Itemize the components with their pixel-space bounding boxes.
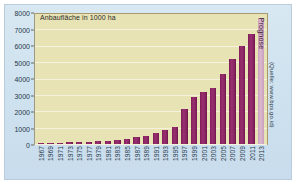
x-axis-tick-label: 2001 bbox=[200, 146, 207, 161]
bar-slot bbox=[218, 13, 228, 144]
bar bbox=[248, 34, 254, 144]
y-axis-tick-mark bbox=[31, 29, 34, 30]
bar bbox=[143, 136, 149, 144]
x-axis-slot: 1977 bbox=[84, 146, 94, 182]
x-axis-tick-label: 1985 bbox=[123, 146, 130, 161]
bar-slot bbox=[74, 13, 84, 144]
x-axis-slot: 1989 bbox=[141, 146, 151, 182]
plot-right-rule bbox=[267, 13, 268, 145]
x-axis-tick-label: 1979 bbox=[95, 146, 102, 161]
bar bbox=[153, 133, 159, 144]
x-axis-slot: 2011 bbox=[247, 146, 257, 182]
y-axis-tick-mark bbox=[31, 46, 34, 47]
x-axis-tick-label: 1975 bbox=[76, 146, 83, 161]
bar bbox=[76, 142, 82, 144]
bar-slot: Prognose bbox=[256, 13, 266, 144]
x-axis-tick-label: 1981 bbox=[104, 146, 111, 161]
bar-slot bbox=[36, 13, 46, 144]
x-axis-slot: 1971 bbox=[55, 146, 65, 182]
x-axis-tick-label: 2007 bbox=[229, 146, 236, 161]
x-axis-tick-label: 1967 bbox=[37, 146, 44, 161]
bar bbox=[162, 130, 168, 144]
bar-slot bbox=[170, 13, 180, 144]
x-axis-tick-label: 1991 bbox=[152, 146, 159, 161]
x-axis: 1967196919711973197519771979198119831985… bbox=[35, 146, 267, 182]
x-axis-slot: 2007 bbox=[228, 146, 238, 182]
x-axis-slot: 1987 bbox=[132, 146, 142, 182]
bar bbox=[133, 137, 139, 144]
bar-slot bbox=[247, 13, 257, 144]
source-note: (Quelle: www.bps.go.id) bbox=[269, 62, 275, 128]
x-axis-slot: 1999 bbox=[189, 146, 199, 182]
x-axis-slot: 1975 bbox=[74, 146, 84, 182]
bar bbox=[105, 141, 111, 144]
bar bbox=[124, 139, 130, 144]
bar bbox=[114, 140, 120, 144]
y-axis-tick-mark bbox=[31, 145, 34, 146]
x-axis-slot: 2005 bbox=[218, 146, 228, 182]
bar-slot bbox=[161, 13, 171, 144]
bar bbox=[229, 59, 235, 144]
bar bbox=[66, 142, 72, 144]
bar-slot bbox=[113, 13, 123, 144]
x-axis-slot: 1997 bbox=[180, 146, 190, 182]
bar bbox=[57, 143, 63, 144]
bar bbox=[181, 109, 187, 144]
bar-slot bbox=[132, 13, 142, 144]
x-axis-tick-label: 1971 bbox=[56, 146, 63, 161]
bar-series: Prognose bbox=[35, 13, 267, 144]
y-axis-tick-mark bbox=[31, 13, 34, 14]
bar-slot bbox=[122, 13, 132, 144]
x-axis-tick-label: 1997 bbox=[181, 146, 188, 161]
y-axis-tick-mark bbox=[31, 79, 34, 80]
x-axis-tick-label: 1989 bbox=[143, 146, 150, 161]
bar-slot bbox=[228, 13, 238, 144]
bar-slot bbox=[93, 13, 103, 144]
bar-slot bbox=[84, 13, 94, 144]
bar-slot bbox=[237, 13, 247, 144]
x-axis-slot: 2009 bbox=[237, 146, 247, 182]
bar bbox=[239, 46, 245, 144]
x-axis-slot: 2003 bbox=[208, 146, 218, 182]
x-axis-tick-label: 1983 bbox=[114, 146, 121, 161]
bar bbox=[200, 92, 206, 144]
bar-slot bbox=[208, 13, 218, 144]
x-axis-slot: 1991 bbox=[151, 146, 161, 182]
x-axis-slot: 1981 bbox=[103, 146, 113, 182]
x-axis-slot: 1995 bbox=[170, 146, 180, 182]
bar-slot bbox=[55, 13, 65, 144]
bar bbox=[86, 142, 92, 144]
x-axis-tick-label: 2005 bbox=[219, 146, 226, 161]
bar bbox=[210, 88, 216, 144]
x-axis-slot: 1973 bbox=[65, 146, 75, 182]
x-axis-tick-label: 2011 bbox=[248, 146, 255, 160]
bar-slot bbox=[103, 13, 113, 144]
x-axis-tick-label: 1973 bbox=[66, 146, 73, 161]
x-axis-tick-label: 2013 bbox=[258, 146, 265, 161]
x-axis-tick-label: 1995 bbox=[171, 146, 178, 161]
forecast-label: Prognose bbox=[258, 18, 265, 50]
x-axis-tick-label: 2009 bbox=[238, 146, 245, 161]
chart-figure: Anbaufläche in 1000 ha 01000200030004000… bbox=[0, 0, 296, 184]
x-axis-tick-label: 1969 bbox=[47, 146, 54, 161]
x-axis-tick-label: 1987 bbox=[133, 146, 140, 161]
bar bbox=[47, 143, 53, 144]
bar bbox=[191, 97, 197, 144]
bar-slot bbox=[199, 13, 209, 144]
x-axis-slot: 2013 bbox=[256, 146, 266, 182]
x-axis-slot: 1967 bbox=[36, 146, 46, 182]
bar-slot bbox=[180, 13, 190, 144]
y-axis-tick-mark bbox=[31, 128, 34, 129]
x-axis-slot: 1969 bbox=[46, 146, 56, 182]
bar bbox=[172, 127, 178, 144]
bar bbox=[220, 74, 226, 144]
x-axis-tick-label: 1993 bbox=[162, 146, 169, 161]
bar-slot bbox=[151, 13, 161, 144]
bar-slot bbox=[189, 13, 199, 144]
x-axis-tick-label: 1977 bbox=[85, 146, 92, 161]
y-axis-tick-mark bbox=[31, 62, 34, 63]
x-axis-slot: 2001 bbox=[199, 146, 209, 182]
bar bbox=[38, 143, 44, 144]
bar-slot bbox=[65, 13, 75, 144]
x-axis-slot: 1985 bbox=[122, 146, 132, 182]
